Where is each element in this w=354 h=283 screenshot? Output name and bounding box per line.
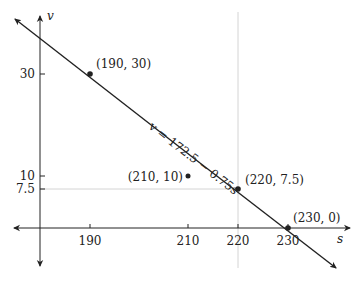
point-label-210-10: (210, 10) xyxy=(128,170,183,184)
x-tick-label-220: 220 xyxy=(227,234,250,248)
point-label-190-30: (190, 30) xyxy=(96,57,151,71)
point-label-230-0: (230, 0) xyxy=(293,211,341,225)
y-tick-label-30: 30 xyxy=(20,67,35,81)
point-210-10 xyxy=(186,174,191,179)
x-axis-label: s xyxy=(337,232,343,246)
point-220-7-5 xyxy=(235,186,241,192)
y-axis-label: v xyxy=(47,9,54,23)
y-tick-label-7-5: 7.5 xyxy=(16,182,35,196)
x-tick-label-210: 210 xyxy=(177,234,200,248)
x-tick-label-230: 230 xyxy=(277,234,300,248)
point-190-30 xyxy=(87,71,93,77)
graph-canvas: v s 190 210 220 230 30 10 7.5 v = 172.5 … xyxy=(0,0,354,283)
point-230-0 xyxy=(285,225,291,231)
point-label-220-7-5: (220, 7.5) xyxy=(245,173,304,187)
line-equation-label: v = 172.5 − 0.75s xyxy=(145,119,241,198)
y-tick-label-10: 10 xyxy=(20,169,35,183)
x-tick-label-190: 190 xyxy=(79,234,102,248)
